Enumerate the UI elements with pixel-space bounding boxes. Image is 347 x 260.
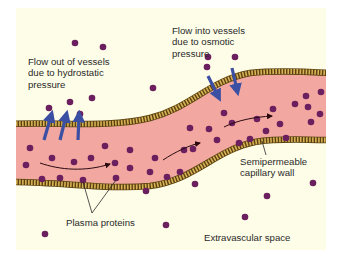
plasma-protein-dot	[49, 155, 56, 162]
plasma-protein-dot	[264, 193, 271, 200]
plasma-protein-dot	[214, 137, 221, 144]
plasma-protein-dot	[100, 44, 107, 51]
plasma-protein-dot	[42, 231, 49, 238]
plasma-protein-dot	[27, 145, 34, 152]
plasma-protein-dot	[247, 136, 254, 143]
plasma-protein-dot	[308, 119, 315, 126]
plasma-protein-dot	[292, 101, 299, 108]
label-flow-in: Flow into vessels due to osmotic pressur…	[172, 25, 245, 59]
plasma-protein-dot	[88, 155, 95, 162]
label-semipermeable: Semipermeable capillary wall	[240, 156, 307, 179]
plasma-protein-dot	[127, 165, 134, 172]
plasma-protein-dot	[112, 160, 119, 167]
plasma-protein-dot	[152, 155, 159, 162]
plasma-protein-dot	[270, 106, 277, 113]
plasma-protein-dot	[150, 85, 157, 92]
plasma-protein-dot	[263, 128, 270, 135]
plasma-protein-dot	[67, 99, 74, 106]
plasma-protein-dot	[147, 169, 154, 176]
plasma-protein-dot	[71, 159, 78, 166]
plasma-protein-dot	[305, 104, 312, 111]
label-extravascular: Extravascular space	[204, 232, 290, 243]
plasma-protein-dot	[163, 222, 170, 229]
plasma-protein-dot	[318, 89, 325, 96]
plasma-protein-dot	[303, 93, 310, 100]
plasma-protein-dot	[164, 174, 171, 181]
plasma-protein-dot	[89, 95, 96, 102]
plasma-protein-dot	[177, 169, 184, 176]
plasma-protein-dot	[102, 143, 109, 150]
plasma-protein-dot	[39, 176, 46, 183]
plasma-protein-dot	[283, 135, 290, 142]
plasma-protein-dot	[236, 140, 243, 147]
plasma-protein-dot	[206, 126, 213, 133]
plasma-protein-dot	[46, 105, 53, 112]
plasma-protein-dot	[221, 110, 228, 117]
plasma-protein-dot	[204, 64, 211, 71]
plasma-protein-dot	[192, 181, 199, 188]
label-flow-out: Flow out of vessels due to hydrostatic p…	[28, 56, 110, 90]
plasma-protein-dot	[242, 214, 249, 221]
plasma-protein-dot	[72, 40, 79, 47]
plasma-protein-dot	[57, 175, 64, 182]
plasma-protein-dot	[187, 125, 194, 132]
plasma-protein-dot	[310, 180, 317, 187]
plasma-protein-dot	[143, 188, 150, 195]
plasma-protein-dot	[127, 147, 134, 154]
plasma-protein-dot	[277, 121, 284, 128]
plasma-protein-dot	[317, 111, 324, 118]
plasma-protein-dot	[23, 162, 30, 169]
plasma-protein-dot	[190, 146, 197, 153]
label-plasma-proteins: Plasma proteins	[66, 217, 135, 228]
